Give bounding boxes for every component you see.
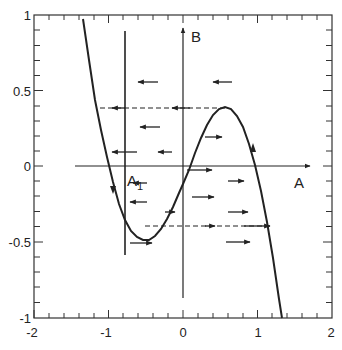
x-tick-2: 2 (327, 325, 334, 340)
phase-plane-diagram: 1 0.5 0 -0.5 -1 -2 -1 0 1 2 A B A 1 (0, 0, 342, 350)
x-tick-labels: -2 -1 0 1 2 (26, 325, 334, 340)
y-tick-neg0.5: -0.5 (9, 235, 31, 250)
a1-label: A (127, 172, 137, 189)
y-tick-0.5: 0.5 (13, 84, 31, 99)
x-tick-neg1: -1 (100, 325, 112, 340)
x-tick-neg2: -2 (26, 325, 38, 340)
b-axis-label: B (191, 28, 201, 45)
x-tick-0: 0 (179, 325, 186, 340)
y-tick-labels: 1 0.5 0 -0.5 -1 (9, 8, 31, 326)
a1-label-subscript: 1 (137, 180, 143, 192)
y-tick-neg1: -1 (19, 311, 31, 326)
a-axis-label: A (294, 174, 304, 191)
y-tick-0: 0 (24, 159, 31, 174)
x-tick-1: 1 (254, 325, 261, 340)
y-tick-1: 1 (24, 8, 31, 23)
